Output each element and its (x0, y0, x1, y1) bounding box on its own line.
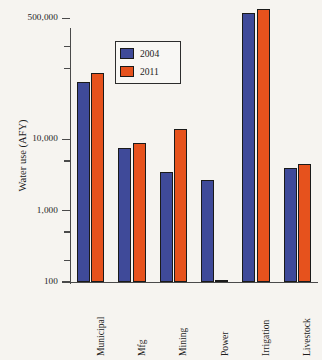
chart-legend: 2004 2011 (115, 41, 181, 84)
bar-mining-2011 (174, 129, 187, 282)
legend-label-2011: 2011 (140, 67, 159, 77)
legend-swatch-2004 (120, 48, 134, 59)
legend-entry: 2004 (120, 46, 175, 61)
y-tick-label: 10,000 (0, 133, 58, 143)
x-axis-label-irrigation: Irrigation (260, 320, 271, 356)
bar-mfg-2004 (118, 148, 131, 282)
bar-power-2004 (201, 180, 214, 282)
x-axis-label-livestock: Livestock (301, 318, 312, 356)
legend-label-2004: 2004 (140, 49, 159, 59)
x-axis-label-power: Power (219, 331, 230, 356)
x-axis-category-labels: MunicipalMfgMiningPowerIrrigationLivesto… (70, 286, 318, 360)
y-tick-major (62, 210, 70, 211)
bar-group (77, 0, 105, 283)
bar-livestock-2011 (298, 164, 311, 282)
y-tick-major (62, 139, 70, 140)
bar-group (284, 0, 312, 283)
y-tick-label: 100 (0, 276, 58, 286)
chart-figure: Water use (AFY) 500,00010,0001,000100 Mu… (0, 0, 322, 360)
y-tick-major (62, 18, 70, 19)
bar-municipal-2004 (77, 82, 90, 282)
y-tick-label: 1,000 (0, 205, 58, 215)
plot-bars (70, 0, 318, 283)
bar-municipal-2011 (91, 73, 104, 282)
x-axis-label-mfg: Mfg (136, 339, 147, 356)
y-axis-title: Water use (AFY) (17, 101, 28, 211)
bar-mining-2004 (160, 172, 173, 282)
bar-irrigation-2011 (257, 9, 270, 282)
x-axis-label-municipal: Municipal (95, 317, 106, 356)
bar-livestock-2004 (284, 168, 297, 282)
legend-entry: 2011 (120, 64, 175, 79)
y-tick-label: 500,000 (0, 12, 58, 22)
bar-mfg-2011 (133, 143, 146, 282)
bar-power-2011 (215, 280, 228, 282)
bar-group (242, 0, 270, 283)
bar-irrigation-2004 (242, 13, 255, 282)
x-axis-label-mining: Mining (177, 328, 188, 356)
legend-swatch-2011 (120, 66, 134, 77)
bar-group (201, 0, 229, 283)
y-tick-major (62, 281, 70, 282)
